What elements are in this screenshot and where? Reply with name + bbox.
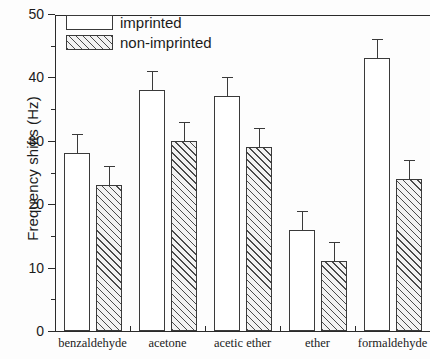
y-tick-label: 10 xyxy=(28,260,44,276)
error-bar-cap xyxy=(104,166,115,167)
y-tick-major: 30 xyxy=(48,141,55,142)
error-bar-stem xyxy=(334,243,335,262)
error-bar-stem xyxy=(302,212,303,231)
bar-imprinted-acetone xyxy=(139,90,165,331)
x-tick xyxy=(280,326,281,332)
y-axis-spine xyxy=(55,15,56,332)
bar-imprinted-acetic-ether xyxy=(214,96,240,331)
error-bar-cap xyxy=(329,242,340,243)
error-bar-cap xyxy=(179,122,190,123)
y-tick-minor xyxy=(51,173,55,174)
error-bar-stem xyxy=(109,167,110,186)
bar-chart-figure: Frequency shifts (Hz) 01020304050 benzal… xyxy=(0,0,430,359)
error-bar-stem xyxy=(227,78,228,97)
x-tick-label-formaldehyde: formaldehyde xyxy=(358,336,427,351)
y-tick-major: 20 xyxy=(48,204,55,205)
y-tick-label: 0 xyxy=(36,323,44,339)
x-tick xyxy=(130,326,131,332)
error-bar-stem xyxy=(409,161,410,180)
x-tick-label-ether: ether xyxy=(305,336,330,351)
error-bar-cap xyxy=(404,160,415,161)
y-tick-minor xyxy=(51,299,55,300)
error-bar-cap xyxy=(222,77,233,78)
y-tick-minor xyxy=(51,109,55,110)
bar-imprinted-benzaldehyde xyxy=(64,153,90,331)
x-tick-label-acetic-ether: acetic ether xyxy=(214,336,271,351)
x-tick-label-benzaldehyde: benzaldehyde xyxy=(58,336,127,351)
y-tick-label: 40 xyxy=(28,69,44,85)
bar-non-imprinted-acetic-ether xyxy=(246,147,272,331)
error-bar-cap xyxy=(297,211,308,212)
y-tick-label: 20 xyxy=(28,196,44,212)
legend-label-imprinted: imprinted xyxy=(120,14,182,31)
x-tick-label-acetone: acetone xyxy=(148,336,186,351)
error-bar-cap xyxy=(372,39,383,40)
error-bar-cap xyxy=(147,71,158,72)
y-tick-label: 30 xyxy=(28,133,44,149)
x-axis-spine xyxy=(55,331,430,332)
y-axis-title: Frequency shifts (Hz) xyxy=(24,59,41,279)
y-tick-minor xyxy=(51,236,55,237)
error-bar-stem xyxy=(377,40,378,59)
bar-imprinted-formaldehyde xyxy=(364,58,390,331)
plot-area: 01020304050 xyxy=(55,15,430,332)
error-bar-stem xyxy=(152,72,153,91)
y-tick-major: 50 xyxy=(48,14,55,15)
x-tick xyxy=(355,326,356,332)
error-bar-stem xyxy=(184,123,185,142)
legend-swatch-hatched-icon xyxy=(66,35,113,50)
legend-swatch-open-icon xyxy=(66,15,113,30)
x-tick xyxy=(205,326,206,332)
error-bar-stem xyxy=(259,129,260,148)
error-bar-cap xyxy=(254,128,265,129)
y-tick-major: 10 xyxy=(48,268,55,269)
bar-non-imprinted-benzaldehyde xyxy=(96,185,122,331)
bar-non-imprinted-formaldehyde xyxy=(396,179,422,331)
legend-label-non-imprinted: non-imprinted xyxy=(120,34,212,51)
bar-non-imprinted-acetone xyxy=(171,141,197,331)
y-tick-minor xyxy=(51,46,55,47)
y-tick-major: 40 xyxy=(48,77,55,78)
error-bar-cap xyxy=(72,134,83,135)
bar-non-imprinted-ether xyxy=(321,261,347,331)
bar-imprinted-ether xyxy=(289,230,315,331)
legend-item-non-imprinted: non-imprinted xyxy=(66,34,212,51)
legend-item-imprinted: imprinted xyxy=(66,14,212,31)
y-tick-major: 0 xyxy=(48,331,55,332)
error-bar-stem xyxy=(77,135,78,154)
y-tick-label: 50 xyxy=(28,6,44,22)
chart-legend: imprinted non-imprinted xyxy=(66,14,212,51)
